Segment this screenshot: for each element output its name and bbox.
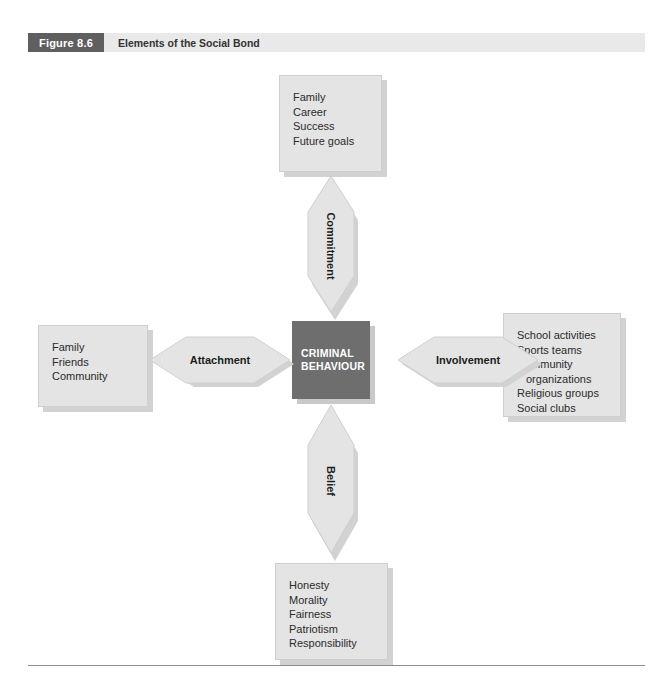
arrow-belief: Belief [308, 405, 354, 557]
figure-container: Figure 8.6 Elements of the Social Bond F… [0, 0, 668, 693]
arrow-commitment: Commitment [308, 176, 354, 316]
central-concept-box: CRIMINAL BEHAVIOUR [292, 321, 370, 399]
central-concept-line-2: BEHAVIOUR [301, 360, 365, 373]
figure-bottom-rule [28, 665, 645, 666]
arrow-attachment: Attachment [150, 337, 290, 383]
list-item: Social clubs [517, 401, 607, 416]
figure-title: Elements of the Social Bond [104, 33, 260, 52]
list-item: Fairness [289, 607, 374, 622]
list-item: Patriotism [289, 622, 374, 637]
list-item: Community [52, 369, 134, 384]
list-item: Friends [52, 355, 134, 370]
attachment-items-box: Family Friends Community [38, 325, 148, 407]
arrow-involvement: Involvement [398, 337, 538, 383]
list-item: Religious groups [517, 386, 607, 401]
list-item: Family [293, 90, 368, 105]
list-item: Success [293, 119, 368, 134]
list-item: Future goals [293, 134, 368, 149]
list-item: Family [52, 340, 134, 355]
central-concept-line-1: CRIMINAL [301, 347, 354, 360]
belief-items-box: Honesty Morality Fairness Patriotism Res… [275, 563, 388, 660]
figure-header: Figure 8.6 Elements of the Social Bond [28, 33, 645, 52]
list-item: Honesty [289, 578, 374, 593]
commitment-items-box: Family Career Success Future goals [279, 75, 382, 172]
list-item: Morality [289, 593, 374, 608]
list-item: Responsibility [289, 636, 374, 651]
figure-number-badge: Figure 8.6 [28, 33, 104, 52]
list-item: Career [293, 105, 368, 120]
